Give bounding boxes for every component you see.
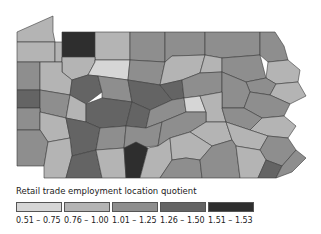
county-potter [130,32,165,62]
county-crawford [17,42,55,62]
legend-label: 1.26 – 1.50 [160,216,207,225]
legend: 0.51 – 0.75 0.76 – 1.00 1.01 – 1.25 1.26… [16,202,255,225]
legend-label: 1.51 – 1.53 [208,216,255,225]
legend-label: 0.51 – 0.75 [16,216,63,225]
choropleth-map [0,0,321,195]
legend-item: 1.26 – 1.50 [160,202,207,225]
legend-swatch [160,202,206,212]
legend-swatch [112,202,158,212]
county-lawrence [17,90,40,108]
county-cambria [96,126,126,150]
legend-item: 0.51 – 0.75 [16,202,63,225]
legend-swatch [64,202,110,212]
county-washington [17,130,48,166]
legend-swatch [208,202,254,212]
legend-swatch [16,202,62,212]
county-mckean [95,32,130,60]
county-mercer [17,62,40,90]
county-beaver [17,108,40,130]
county-susquehanna [260,32,288,62]
legend-item: 0.76 – 1.00 [64,202,111,225]
legend-label: 1.01 – 1.25 [112,216,159,225]
legend-item: 1.01 – 1.25 [112,202,159,225]
county-warren [62,32,95,57]
county-wayne [266,60,300,84]
county-erie [17,16,55,42]
county-forest [55,42,62,62]
legend-title: Retail trade employment location quotien… [16,186,197,196]
county-bradford [205,32,260,58]
legend-item: 1.51 – 1.53 [208,202,255,225]
legend-label: 0.76 – 1.00 [64,216,111,225]
county-indiana [86,98,132,128]
